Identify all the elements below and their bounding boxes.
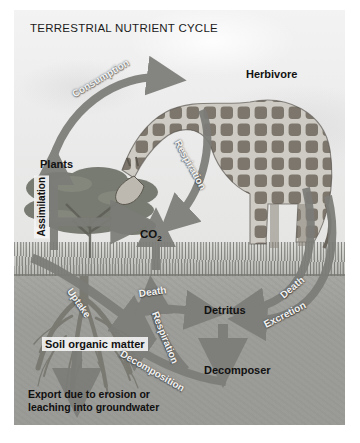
export-caption-line2: leaching into groundwater bbox=[28, 401, 159, 414]
node-co2: CO2 bbox=[140, 228, 162, 243]
export-caption: Export due to erosion or leaching into g… bbox=[28, 388, 159, 414]
export-caption-line1: Export due to erosion or bbox=[28, 388, 159, 401]
node-herbivore: Herbivore bbox=[246, 68, 297, 80]
node-plants: Plants bbox=[40, 158, 73, 170]
flow-label-assimilation: Assimilation bbox=[34, 175, 49, 238]
node-detritus: Detritus bbox=[204, 304, 246, 316]
page-title: TERRESTRIAL NUTRIENT CYCLE bbox=[30, 22, 218, 34]
node-soil-organic-matter: Soil organic matter bbox=[42, 337, 148, 351]
node-decomposer: Decomposer bbox=[204, 364, 271, 376]
nutrient-cycle-figure: TERRESTRIAL NUTRIENT CYCLE Plants Herbiv… bbox=[14, 10, 345, 425]
